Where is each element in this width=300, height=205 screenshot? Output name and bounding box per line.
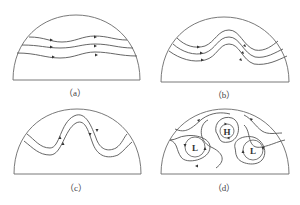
- streamline: [17, 52, 137, 58]
- streamline: [244, 115, 282, 134]
- streamline: [177, 30, 278, 50]
- panel-c: [14, 109, 141, 174]
- streamline: [29, 36, 127, 42]
- arrow-icon: [204, 147, 207, 150]
- streamline: [22, 44, 133, 48]
- arrow-icon: [225, 123, 228, 126]
- caption-d: （d）: [204, 181, 244, 194]
- high-label: H: [223, 127, 230, 137]
- arrow-icon: [227, 137, 230, 140]
- caption-b: （b）: [204, 88, 244, 101]
- arrow-icon: [197, 46, 200, 49]
- arrow-icon: [184, 144, 187, 147]
- panel-a: [13, 15, 140, 80]
- caption-c: （c）: [56, 181, 96, 194]
- streamline: [173, 37, 283, 57]
- arrow-icon: [96, 129, 99, 132]
- hemisphere-outline: [161, 109, 289, 174]
- westerlies-wave-diagram: H L L: [0, 0, 300, 205]
- panel-d: H L L: [161, 109, 289, 174]
- low-label: L: [192, 143, 198, 153]
- streamline: [175, 113, 230, 131]
- caption-a: （a）: [55, 86, 95, 99]
- arrow-icon: [95, 54, 98, 57]
- arrow-icon: [89, 133, 92, 136]
- panel-b: [161, 17, 289, 82]
- arrow-icon: [94, 45, 97, 48]
- streamline: [24, 122, 132, 157]
- arrow-icon: [195, 165, 198, 168]
- arrow-icon: [242, 150, 245, 153]
- arrow-icon: [243, 44, 246, 47]
- streamline: [27, 115, 127, 150]
- streamline: [201, 120, 285, 168]
- arrow-icon: [239, 58, 242, 61]
- arrow-icon: [201, 59, 204, 62]
- low-label: L: [250, 146, 256, 156]
- streamline: [170, 135, 210, 160]
